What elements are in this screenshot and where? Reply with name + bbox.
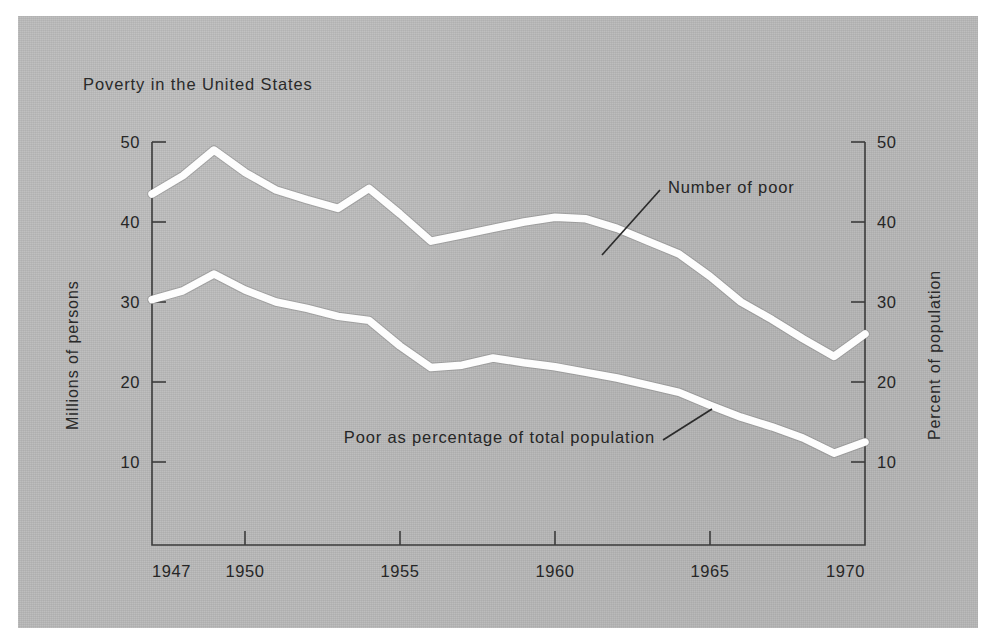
- chart-title: Poverty in the United States: [83, 75, 313, 94]
- right-tick-label: 40: [877, 213, 897, 231]
- y-axis-label-right: Percent of population: [926, 270, 943, 440]
- right-tick-label: 30: [877, 293, 897, 311]
- y-axis-label-left: Millions of persons: [64, 280, 81, 430]
- axis-frame: [152, 142, 865, 545]
- x-tick-label: 1960: [535, 562, 574, 580]
- x-tick-label: 1955: [380, 562, 419, 580]
- annotation-poor-percentage: Poor as percentage of total population: [344, 409, 712, 446]
- annotation-label-lower: Poor as percentage of total population: [344, 428, 655, 446]
- x-tick-label: 1970: [826, 562, 865, 580]
- poverty-line-chart: 1020304050 1020304050 194719501955196019…: [0, 0, 996, 644]
- figure-page: Poverty in the United States 1020304050 …: [0, 0, 996, 644]
- right-tick-label: 50: [877, 133, 897, 151]
- left-tick-label: 30: [120, 293, 140, 311]
- right-axis-tick-labels: 1020304050: [877, 133, 897, 471]
- annotation-label-upper: Number of poor: [668, 178, 795, 196]
- right-tick-label: 20: [877, 373, 897, 391]
- x-tick-label: 1965: [690, 562, 729, 580]
- left-tick-label: 10: [120, 453, 140, 471]
- series-line-poor: [152, 274, 865, 453]
- x-axis-ticks: [245, 531, 710, 545]
- x-axis-tick-labels: 194719501955196019651970: [152, 562, 865, 580]
- annotation-leader-line-lower: [663, 409, 712, 440]
- right-tick-label: 10: [877, 453, 897, 471]
- right-axis-ticks: [851, 142, 865, 462]
- left-tick-label: 40: [120, 213, 140, 231]
- left-tick-label: 20: [120, 373, 140, 391]
- annotation-number-of-poor: Number of poor: [602, 178, 795, 255]
- left-axis-tick-labels: 1020304050: [120, 133, 140, 471]
- x-tick-label: 1947: [152, 562, 191, 580]
- left-tick-label: 50: [120, 133, 140, 151]
- x-tick-label: 1950: [225, 562, 264, 580]
